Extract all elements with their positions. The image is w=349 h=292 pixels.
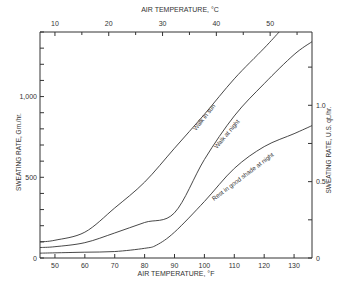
curve-walk-at-night — [40, 42, 312, 248]
y-left-axis-title: SWEATING RATE, Gm./hr. — [15, 113, 22, 191]
ticks: 5060708090100110120130102030405005001,00… — [19, 20, 325, 269]
y-tick-label: 0 — [33, 255, 37, 262]
x-tick-label: 130 — [288, 262, 300, 269]
x-tick-label: 70 — [111, 262, 119, 269]
chart-svg: 5060708090100110120130102030405005001,00… — [0, 0, 349, 292]
x2-tick-label: 50 — [266, 20, 274, 27]
curve-label-walk-in-sun: Walk in sun — [191, 102, 216, 132]
x2-tick-label: 30 — [159, 20, 167, 27]
x-tick-label: 50 — [51, 262, 59, 269]
x2-tick-label: 10 — [51, 20, 59, 27]
curves — [40, 32, 312, 253]
x-tick-label: 120 — [258, 262, 270, 269]
x-bottom-axis-title: AIR TEMPERATURE, °F — [138, 270, 215, 277]
y2-tick-label: 0 — [316, 255, 320, 262]
x-tick-label: 80 — [141, 262, 149, 269]
x2-tick-label: 20 — [105, 20, 113, 27]
curve-label-rest-in-shade: Rest in good shade at night — [210, 151, 275, 202]
curve-walk-in-sun — [40, 32, 279, 242]
x-tick-label: 90 — [171, 262, 179, 269]
x2-tick-label: 40 — [212, 20, 220, 27]
curve-label-walk-at-night: Walk at night — [212, 118, 240, 150]
x-tick-label: 60 — [81, 262, 89, 269]
x-top-axis-title: AIR TEMPERATURE, °C — [141, 6, 219, 13]
y-right-axis-title: SWEATING RATE, U.S. qt./hr. — [325, 106, 333, 193]
x-tick-label: 110 — [229, 262, 240, 269]
y-tick-label: 500 — [25, 174, 37, 181]
sweating-rate-chart: 5060708090100110120130102030405005001,00… — [0, 0, 349, 292]
x-tick-label: 100 — [199, 262, 211, 269]
axes — [40, 32, 312, 258]
y-tick-label: 1,000 — [19, 93, 37, 100]
